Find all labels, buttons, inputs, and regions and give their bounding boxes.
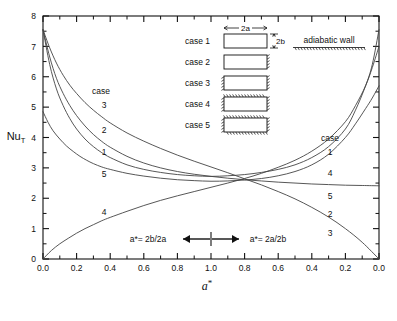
legend-case-label: case 4 — [185, 99, 210, 109]
x-tick-label: 0.6 — [138, 263, 150, 273]
x-tick-label: 0.6 — [272, 263, 284, 273]
adiabatic-wall-label: adiabatic wall — [303, 35, 354, 45]
curve-label-left-2: 2 — [102, 125, 107, 135]
x-axis-title-superscript: * — [208, 278, 213, 288]
y-tick-label: 1 — [31, 224, 36, 234]
axis-note-right: a*= 2a/2b — [250, 234, 287, 244]
curve-label-right-3: 5 — [328, 191, 333, 201]
legend-case-label: case 2 — [185, 57, 210, 67]
curve-label-left-4: 5 — [102, 169, 107, 179]
x-tick-label: 1.0 — [205, 263, 217, 273]
y-tick-label: 3 — [31, 163, 36, 173]
curve-label-right-4: 2 — [328, 209, 333, 219]
axis-note-left: a*= 2b/2a — [130, 234, 167, 244]
curve-label-header-right: case — [321, 133, 339, 143]
y-tick-label: 6 — [31, 72, 36, 82]
x-tick-label: 0.2 — [71, 263, 83, 273]
y-tick-label: 5 — [31, 102, 36, 112]
curve-label-right-1: 1 — [328, 147, 333, 157]
x-tick-label: 0.4 — [306, 263, 318, 273]
y-tick-label: 8 — [31, 11, 36, 21]
chart-canvas: 0123456780.00.20.40.60.81.00.80.60.40.20… — [0, 0, 397, 321]
y-axis-title-subscript: T — [21, 136, 26, 145]
dim-height-label: 2b — [276, 37, 285, 46]
curve-label-left-5: 4 — [102, 207, 107, 217]
x-tick-label: 0.4 — [104, 263, 116, 273]
legend-case-label: case 3 — [185, 78, 210, 88]
figure-nusselt-vs-aspect-ratio: 0123456780.00.20.40.60.81.00.80.60.40.20… — [0, 0, 397, 321]
legend-case-label: case 5 — [185, 120, 210, 130]
curve-label-header-left: case — [92, 86, 110, 96]
legend-case-label: case 1 — [185, 36, 210, 46]
curve-label-left-1: 3 — [102, 100, 107, 110]
dim-width-label: 2a — [241, 24, 250, 33]
curve-label-right-2: 4 — [328, 168, 333, 178]
x-tick-label: 0.8 — [171, 263, 183, 273]
y-tick-label: 2 — [31, 193, 36, 203]
y-tick-label: 7 — [31, 42, 36, 52]
curve-label-left-3: 1 — [102, 147, 107, 157]
y-tick-label: 0 — [31, 254, 36, 264]
x-tick-label: 0.0 — [37, 263, 49, 273]
x-tick-label: 0.0 — [373, 263, 385, 273]
y-tick-label: 4 — [31, 133, 36, 143]
x-tick-label: 0.8 — [239, 263, 251, 273]
curve-label-right-5: 3 — [328, 228, 333, 238]
x-tick-label: 0.2 — [339, 263, 351, 273]
